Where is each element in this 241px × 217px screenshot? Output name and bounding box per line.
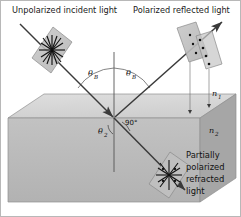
svg-text:n: n (209, 126, 214, 135)
slab-top-face (8, 94, 236, 118)
svg-text:refracted: refracted (186, 174, 224, 184)
svg-text:θ: θ (88, 69, 93, 78)
label-ninety-degrees: 90° (125, 119, 137, 127)
svg-text:1: 1 (218, 94, 222, 100)
svg-text:θ: θ (126, 69, 131, 78)
title-unpolarized-incident: Unpolarized incident light (12, 5, 118, 15)
svg-text:B: B (131, 74, 136, 80)
brewster-angle-diagram: Unpolarized incident light Polarized ref… (0, 0, 241, 217)
svg-text:polarized: polarized (186, 162, 225, 172)
svg-text:B: B (93, 74, 98, 80)
svg-text:2: 2 (103, 132, 108, 138)
svg-text:2: 2 (214, 131, 219, 137)
title-polarized-reflected: Polarized reflected light (133, 5, 231, 15)
svg-text:light: light (186, 186, 205, 196)
diagram-canvas: Unpolarized incident light Polarized ref… (0, 0, 241, 217)
svg-text:n: n (212, 89, 217, 98)
svg-text:θ: θ (98, 127, 103, 136)
svg-text:Partially: Partially (186, 150, 220, 160)
